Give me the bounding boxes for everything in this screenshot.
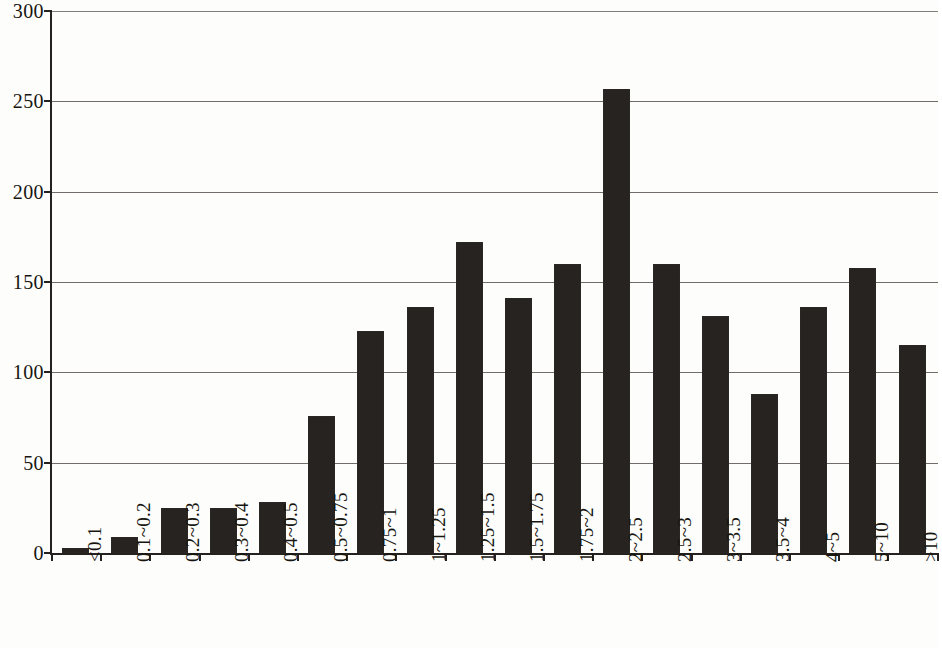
x-tick-label-text: 0.5~0.75 (330, 492, 352, 562)
bar (849, 268, 876, 553)
x-tick-label-text: 1~1.25 (428, 507, 450, 562)
x-tick-label-text: 4~5 (822, 532, 844, 562)
bars (51, 11, 938, 553)
x-tick-label-text: 3~3.5 (723, 517, 745, 562)
x-tick-label-text: 1.5~1.75 (526, 492, 548, 562)
y-tick-label: 150 (13, 271, 44, 294)
x-tick-label-text: >10 (920, 531, 942, 562)
x-tick-label-text: 3.5~4 (772, 517, 794, 562)
x-tick-label-text: 0.2~0.3 (182, 502, 204, 562)
x-tick-label-text: 2.5~3 (674, 517, 696, 562)
x-tick-label-text: 1.25~1.5 (477, 492, 499, 562)
x-tick-label-text: 0.1~0.2 (133, 502, 155, 562)
bar (603, 89, 630, 553)
bar (800, 307, 827, 553)
y-tick-label: 300 (13, 0, 44, 23)
y-tick-label: 0 (34, 542, 44, 565)
y-tick-label: 100 (13, 361, 44, 384)
x-tick-label-text: 0.75~1 (379, 507, 401, 562)
x-tick-label-text: 1.75~2 (576, 507, 598, 562)
x-tick-mark (51, 553, 53, 561)
x-tick-label-text: <0.1 (84, 526, 106, 562)
x-tick-label-text: 0.3~0.4 (231, 502, 253, 562)
bar (653, 264, 680, 553)
y-tick-label: 200 (13, 180, 44, 203)
x-tick-label-text: 5~10 (871, 522, 893, 562)
bar (899, 345, 926, 553)
y-tick-label: 50 (23, 451, 44, 474)
x-tick-label-text: 0.4~0.5 (280, 502, 302, 562)
y-tick-label: 250 (13, 90, 44, 113)
x-tick-label-text: 2~2.5 (625, 517, 647, 562)
